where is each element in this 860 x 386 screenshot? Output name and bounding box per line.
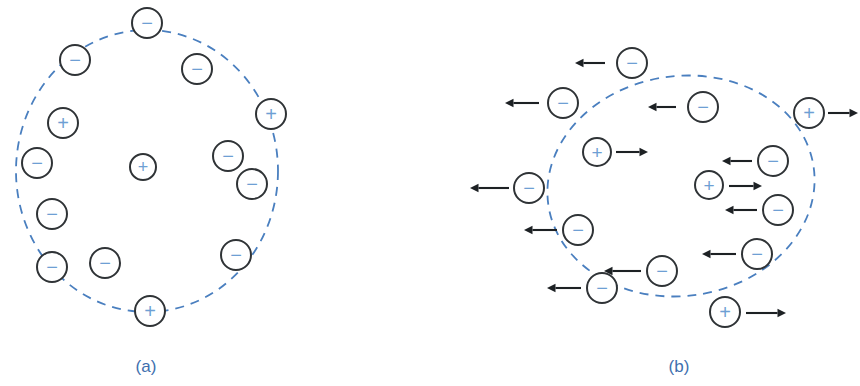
charge-plus: + (583, 138, 611, 166)
charge-sign-minus-icon: − (191, 58, 203, 80)
charge-sign-minus-icon: − (772, 199, 784, 221)
charge-sign-minus-icon: − (751, 243, 763, 265)
charge-minus: − (647, 256, 677, 286)
charge-sign-minus-icon: − (596, 277, 608, 299)
charge-minus: − (563, 215, 593, 245)
charge-minus: − (763, 195, 793, 225)
charge-minus: − (90, 248, 120, 278)
charge-plus: + (695, 171, 723, 199)
charge-sign-minus-icon: − (767, 150, 779, 172)
charge-sign-minus-icon: − (46, 203, 58, 225)
velocity-arrow-left (470, 184, 509, 192)
charge-sign-plus-icon: + (719, 301, 731, 323)
charge-sign-minus-icon: − (656, 260, 668, 282)
velocity-arrow-left (575, 59, 605, 67)
charge-plus: + (256, 99, 286, 129)
charge-minus: − (688, 92, 718, 122)
charge-minus: − (514, 173, 544, 203)
panel-b: −−−++−−+−−−−−+(b) (470, 48, 858, 376)
physics-figure: −−−++−+−−−−−−+(a) −−−++−−+−−−−−+(b) (0, 0, 860, 386)
velocity-arrow-left (702, 250, 736, 258)
charge-sign-minus-icon: − (557, 92, 569, 114)
charge-sign-plus-icon: + (138, 157, 149, 177)
charge-minus: − (132, 8, 162, 38)
charge-minus: − (587, 273, 617, 303)
charge-plus: + (130, 154, 156, 180)
charge-minus: − (237, 169, 267, 199)
charge-minus: − (548, 88, 578, 118)
velocity-arrow-right (828, 109, 858, 117)
panel-caption-b: (b) (669, 357, 690, 376)
charge-sign-plus-icon: + (703, 175, 714, 196)
velocity-arrow-right (729, 182, 762, 190)
charge-sign-minus-icon: − (69, 49, 81, 71)
velocity-arrow-left (648, 103, 676, 111)
charge-sign-plus-icon: + (265, 103, 277, 125)
charge-minus: − (758, 146, 788, 176)
figure-canvas: −−−++−+−−−−−−+(a) −−−++−−+−−−−−+(b) (0, 0, 860, 386)
charge-minus: − (221, 240, 251, 270)
velocity-arrow-left (505, 99, 539, 107)
charge-sign-minus-icon: − (246, 173, 258, 195)
charge-sign-minus-icon: − (46, 256, 58, 278)
charge-minus: − (213, 141, 243, 171)
charge-plus: + (710, 297, 740, 327)
charge-minus: − (182, 54, 212, 84)
velocity-arrow-right (616, 148, 648, 156)
panel-a: −−−++−+−−−−−−+(a) (16, 8, 286, 376)
charge-sign-plus-icon: + (591, 142, 602, 163)
charge-sign-minus-icon: − (222, 145, 234, 167)
charge-sign-minus-icon: − (31, 152, 43, 174)
velocity-arrow-left (722, 157, 752, 165)
charge-minus: − (60, 45, 90, 75)
velocity-arrow-left (524, 226, 557, 234)
charge-sign-minus-icon: − (230, 244, 242, 266)
panel-caption-a: (a) (136, 357, 157, 376)
charge-sign-minus-icon: − (572, 219, 584, 241)
charge-sign-plus-icon: + (144, 300, 156, 322)
charge-minus: − (37, 252, 67, 282)
charge-minus: − (742, 239, 772, 269)
charge-sign-minus-icon: − (523, 177, 535, 199)
charge-plus: + (135, 296, 165, 326)
charge-sign-plus-icon: + (57, 112, 69, 134)
charge-minus: − (37, 199, 67, 229)
charge-minus: − (617, 48, 647, 78)
velocity-arrow-left (547, 284, 581, 292)
charge-plus: + (794, 98, 824, 128)
charge-plus: + (48, 108, 78, 138)
velocity-arrow-left (725, 206, 757, 214)
charge-sign-minus-icon: − (697, 96, 709, 118)
charge-sign-minus-icon: − (141, 12, 153, 34)
charge-sign-minus-icon: − (626, 52, 638, 74)
velocity-arrow-right (746, 309, 786, 317)
charge-sign-minus-icon: − (99, 252, 111, 274)
charge-minus: − (22, 148, 52, 178)
charge-sign-plus-icon: + (803, 102, 815, 124)
